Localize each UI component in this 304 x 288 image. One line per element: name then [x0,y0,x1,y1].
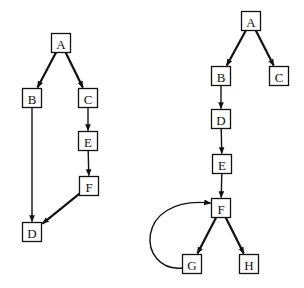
right-graph-node-g: G [183,255,202,274]
left-graph-edge-e-to-f [88,151,89,176]
node-label: C [84,92,93,107]
right-graph-edge-a-to-b [227,31,246,66]
node-label: A [56,37,66,52]
node-label: G [187,258,196,273]
right-graph-node-d: D [212,110,231,129]
right-graph-edge-e-to-f [221,174,222,198]
node-label: B [217,70,226,85]
right-graph-node-b: B [212,67,231,86]
node-label: F [217,202,224,217]
left-graph-node-b: B [23,89,42,108]
left-graph-edge-f-to-d [43,194,80,224]
right-graph-node-a: A [242,12,261,31]
right-graph-edge-d-to-e [221,129,222,154]
left-graph-node-a: A [52,34,71,53]
node-label: C [275,70,284,85]
right-graph-node-c: C [270,67,289,86]
nodes-layer: ABCEFDABCDEFGH [23,12,289,274]
node-label: B [28,92,37,107]
left-graph-node-e: E [79,132,98,151]
right-graph-edge-a-to-c [256,31,274,66]
node-label: H [244,258,253,273]
node-label: A [246,15,256,30]
left-graph-edge-a-to-c [66,53,83,88]
left-graph-node-c: C [79,89,98,108]
node-label: E [84,135,92,150]
left-graph-node-f: F [80,177,99,196]
edges-layer [32,31,274,269]
right-graph-node-h: H [240,255,259,274]
node-label: E [218,158,226,173]
left-graph-node-d: D [23,223,42,242]
left-graph-edge-a-to-b [38,53,56,88]
node-label: F [85,180,92,195]
node-label: D [27,226,36,241]
diagram-canvas: ABCEFDABCDEFGH [0,0,304,288]
right-graph-node-e: E [213,155,232,174]
node-label: D [216,113,225,128]
right-graph-edge-f-to-h [226,218,244,254]
right-graph-edge-f-to-g [197,218,216,254]
right-graph-node-f: F [212,199,231,218]
